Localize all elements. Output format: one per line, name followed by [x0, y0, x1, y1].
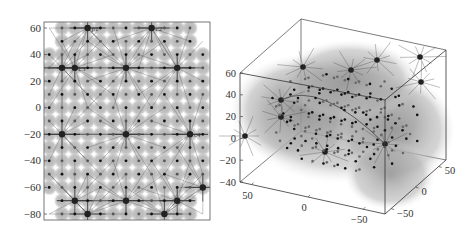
cluster-head-node: [72, 198, 78, 204]
z-tick-label: 20: [226, 111, 237, 122]
cluster-head-node: [84, 211, 90, 217]
y-tick-label: 20: [30, 75, 42, 87]
cluster-head-node: [84, 25, 90, 31]
cluster-head-node: [59, 65, 65, 71]
y-tick-label: 60: [30, 22, 42, 34]
y-tick-label: −40: [24, 154, 42, 166]
right-3d-plot: 6040200−20−40500−50500−50: [219, 19, 455, 225]
cluster-head-node: [123, 65, 129, 71]
cluster-head-node: [187, 131, 193, 137]
cluster-head-node-3d: [300, 64, 306, 70]
x-tick-label: −50: [351, 214, 367, 225]
cluster-head-label: c4: [194, 131, 201, 139]
coverage-volume: [230, 40, 455, 210]
cluster-head-node-3d: [242, 133, 248, 139]
cluster-head-node: [200, 184, 206, 190]
cluster-head-node-3d: [418, 79, 424, 85]
z-tick-label: 0: [231, 133, 236, 144]
y-tick-label: 0: [36, 101, 42, 113]
z-tick-label: −20: [220, 155, 236, 166]
cluster-head-node: [123, 198, 129, 204]
cluster-head-label: p1: [92, 25, 100, 33]
z-tick-label: 40: [226, 89, 237, 100]
cluster-head-node: [174, 65, 180, 71]
cluster-head-node-3d: [374, 57, 380, 63]
cluster-head-node: [123, 131, 129, 137]
cluster-head-node-3d: [417, 54, 423, 60]
y-tick-label: −20: [24, 128, 42, 140]
cluster-head-node: [148, 25, 154, 31]
cluster-head-node: [161, 211, 167, 217]
y-tick-label: −80: [24, 208, 42, 220]
x-tick-label: 50: [242, 190, 253, 201]
cluster-head-node: [174, 198, 180, 204]
y-tick-label-3d: −50: [397, 208, 413, 219]
z-tick-label: −40: [220, 177, 236, 188]
cluster-head-label: c3: [79, 65, 86, 73]
figure: p1c2c3c4 6040200−20−40−60−80: [0, 0, 476, 235]
x-tick-label: 0: [302, 202, 307, 213]
z-tick-label: 60: [226, 68, 237, 79]
y-tick-label: 40: [30, 48, 42, 60]
y-tick-label: −60: [24, 181, 42, 193]
left-y-axis: 6040200−20−40−60−80: [24, 22, 47, 220]
cluster-head-node-3d: [348, 67, 354, 73]
y-tick-label-3d: 50: [445, 165, 456, 176]
left-plot: p1c2c3c4 6040200−20−40−60−80: [24, 14, 221, 228]
cluster-head-label: c2: [156, 25, 163, 33]
y-tick-label-3d: 0: [422, 186, 427, 197]
cluster-head-node: [72, 65, 78, 71]
cluster-head-node: [59, 131, 65, 137]
